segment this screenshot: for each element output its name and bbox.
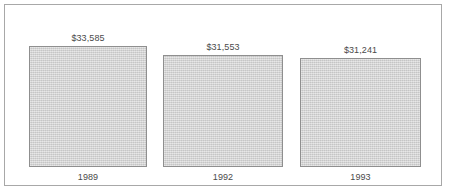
bar-1993 [300,58,421,167]
category-label-1989: 1989 [29,172,147,182]
bar-1992 [163,55,283,167]
category-label-1992: 1992 [163,172,283,182]
bar-chart: $33,585 1989 $31,553 1992 $31,241 1993 [0,0,449,192]
plot-area: $33,585 1989 $31,553 1992 $31,241 1993 [0,0,449,192]
bar-1989 [29,46,147,167]
value-label-1992: $31,553 [163,42,283,52]
category-label-1993: 1993 [300,172,421,182]
value-label-1989: $33,585 [29,33,147,43]
value-label-1993: $31,241 [300,45,421,55]
